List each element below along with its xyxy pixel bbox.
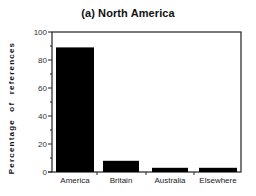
x-category-label: Britain xyxy=(110,176,133,185)
bar-america xyxy=(56,47,94,172)
y-tick-label: 80 xyxy=(38,56,47,65)
y-axis: 020406080100 xyxy=(34,28,52,177)
x-axis: AmericaBritainAustraliaElsewhere xyxy=(48,172,237,185)
bar-chart: 020406080100 AmericaBritainAustraliaElse… xyxy=(0,0,256,196)
bars xyxy=(56,47,237,172)
bar-britain xyxy=(103,161,139,172)
y-tick-label: 40 xyxy=(38,112,47,121)
x-category-label: America xyxy=(60,176,90,185)
x-category-label: Elsewhere xyxy=(199,176,237,185)
y-tick-label: 100 xyxy=(34,28,48,37)
y-tick-label: 20 xyxy=(38,140,47,149)
y-tick-label: 0 xyxy=(43,168,48,177)
bar-elsewhere xyxy=(199,168,237,172)
x-category-label: Australia xyxy=(154,176,186,185)
bar-australia xyxy=(152,168,188,172)
y-tick-label: 60 xyxy=(38,84,47,93)
